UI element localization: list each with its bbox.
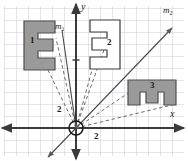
shape-1-label: 1 bbox=[30, 36, 35, 45]
distance-label-horizontal: 2 bbox=[94, 132, 99, 141]
shape-2-figure bbox=[90, 20, 120, 69]
line-m1-label-text: m bbox=[55, 21, 62, 31]
shape-2-label: 2 bbox=[107, 38, 112, 47]
shape-1-figure bbox=[24, 21, 55, 70]
x-axis-label: x bbox=[170, 109, 174, 119]
line-m2-label-text: m bbox=[163, 5, 170, 15]
y-axis-label: y bbox=[81, 2, 85, 12]
line-m2-label: m2 bbox=[163, 6, 173, 15]
distance-label-vertical: 2 bbox=[57, 105, 62, 114]
coordinate-plane-figure: y x m1 m2 1 2 3 2 2 bbox=[0, 0, 188, 161]
shape-3-label: 3 bbox=[150, 81, 155, 90]
line-m2-label-sub: 2 bbox=[170, 10, 173, 16]
line-m1-label: m1 bbox=[55, 22, 65, 31]
line-m1-label-sub: 1 bbox=[62, 26, 65, 32]
